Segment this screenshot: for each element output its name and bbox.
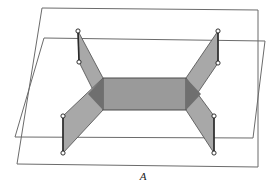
figure-label: A <box>139 170 147 182</box>
vertex-upper-left-bottom <box>77 60 81 64</box>
vertex-upper-left-top <box>76 29 80 33</box>
figure-canvas: A <box>0 0 280 190</box>
vertex-upper-right-bottom <box>216 61 220 65</box>
vertex-lower-left-top <box>61 114 65 118</box>
vertex-lower-left-bottom <box>61 151 65 155</box>
upper-left-vertical-edge <box>78 31 79 62</box>
geometry-diagram: A <box>0 0 280 190</box>
vertex-upper-right-top <box>216 29 220 33</box>
vertex-lower-right-bottom <box>212 151 216 155</box>
center-rectangle-face <box>103 78 186 110</box>
vertex-lower-right-top <box>212 114 216 118</box>
